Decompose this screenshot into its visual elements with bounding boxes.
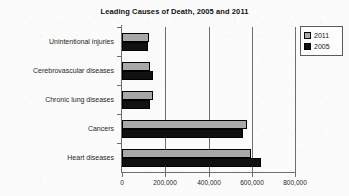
y-axis-tick [117, 114, 122, 115]
bar-2011 [122, 91, 153, 100]
y-axis-category-label: Heart diseases [0, 154, 114, 162]
bar-2011 [122, 149, 251, 158]
bar-2005 [122, 100, 150, 109]
gray-swatch-icon [304, 32, 311, 39]
bar-chart: Leading Causes of Death, 2005 and 2011 0… [0, 0, 349, 196]
chart-title: Leading Causes of Death, 2005 and 2011 [0, 7, 349, 16]
x-axis-tick-label: 200,000 [153, 179, 177, 186]
y-axis-tick [117, 85, 122, 86]
bar-2005 [122, 71, 153, 80]
x-axis-tick [209, 173, 210, 177]
x-axis-tick [252, 173, 253, 177]
bar-2011 [122, 33, 149, 42]
gridline [295, 27, 296, 172]
bar-2005 [122, 158, 261, 167]
y-axis-tick [117, 27, 122, 28]
x-axis-tick [295, 173, 296, 177]
y-axis-category-label: Unintentional injuries [0, 38, 114, 46]
legend-item-2011: 2011 [304, 30, 339, 41]
gridline [252, 27, 253, 172]
x-axis-tick [165, 173, 166, 177]
x-axis-tick-label: 0 [120, 179, 124, 186]
y-axis-category-label: Cancers [0, 125, 114, 133]
x-axis-tick-label: 600,000 [240, 179, 264, 186]
x-axis-tick-label: 800,000 [283, 179, 307, 186]
y-axis-tick [117, 56, 122, 57]
black-swatch-icon [304, 43, 311, 50]
y-axis-category-label: Chronic lung diseases [0, 96, 114, 104]
bar-2011 [122, 120, 247, 129]
bar-2011 [122, 62, 150, 71]
x-axis-tick [122, 173, 123, 177]
bar-2005 [122, 42, 148, 51]
legend-label-2005: 2005 [314, 43, 330, 51]
legend-item-2005: 2005 [304, 41, 339, 52]
y-axis-tick [117, 143, 122, 144]
legend-label-2011: 2011 [314, 32, 329, 40]
chart-legend: 2011 2005 [300, 26, 343, 56]
bar-2005 [122, 129, 243, 138]
y-axis-category-label: Cerebrovascular diseases [0, 67, 114, 75]
x-axis-tick-label: 400,000 [197, 179, 221, 186]
